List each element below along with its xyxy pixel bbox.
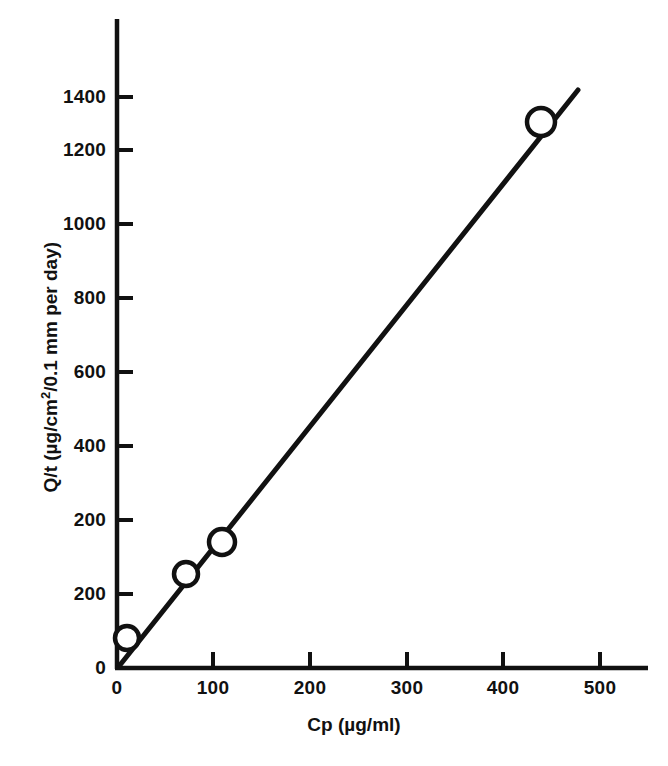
y-axis-title-mu: µ: [40, 443, 61, 454]
data-point: [209, 529, 235, 555]
y-axis-ticks: [117, 97, 133, 668]
x-axis-title-mu: µ: [344, 714, 355, 735]
data-point: [115, 626, 139, 650]
chart-figure: 1400 1200 1000 800 600 400 200 200 0 0 1…: [0, 0, 668, 766]
scatter-plot-canvas: [0, 0, 668, 766]
x-axis-title: Cp (µg/ml): [0, 714, 668, 736]
data-point: [174, 562, 198, 586]
x-axis-ticks: [213, 652, 600, 668]
y-axis-title: Q/t (µg/cm2/0.1 mm per day): [38, 147, 62, 587]
y-axis-title-mid2: /0.1 mm per day): [40, 242, 61, 392]
y-axis-title-mid1: g/cm: [40, 399, 61, 443]
x-axis-title-lead: Cp (: [307, 714, 344, 735]
data-point: [527, 108, 555, 136]
y-axis-title-superscript: 2: [38, 392, 53, 399]
x-axis-title-tail: g/ml): [355, 714, 400, 735]
data-point-markers: [115, 108, 555, 650]
y-axis-title-lead: Q/t (: [40, 454, 61, 492]
